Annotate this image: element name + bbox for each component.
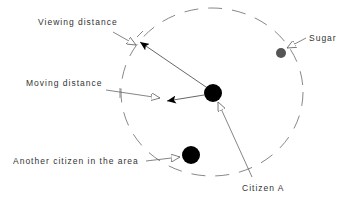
citizen-a-dot — [204, 84, 222, 102]
viewing-distance-pointer — [113, 32, 136, 45]
viewing-distance-label: Viewing distance — [38, 17, 118, 27]
citizen-diagram: Viewing distance Moving distance Another… — [0, 0, 354, 203]
another-citizen-label: Another citizen in the area — [13, 156, 139, 166]
moving-distance-label: Moving distance — [26, 78, 102, 88]
viewing-distance-tick — [137, 31, 143, 37]
sugar-pointer — [287, 38, 306, 48]
another-citizen-pointer — [146, 157, 180, 161]
another-citizen-dot — [182, 146, 200, 164]
sugar-label: Sugar — [309, 33, 337, 43]
sugar-dot — [276, 48, 286, 58]
viewing-distance-arrow — [140, 42, 206, 87]
citizen-a-pointer — [218, 102, 252, 177]
moving-distance-arrow — [167, 95, 204, 101]
citizen-a-label: Citizen A — [242, 183, 285, 193]
moving-distance-pointer — [106, 90, 160, 98]
